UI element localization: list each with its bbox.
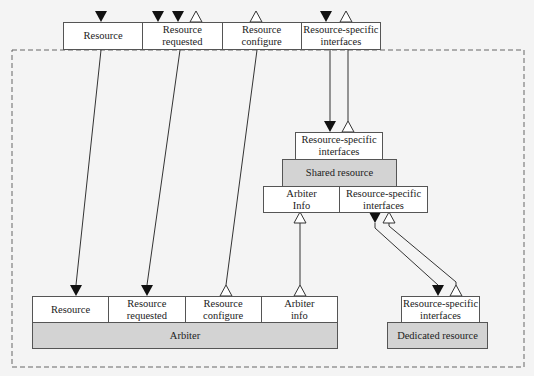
- hollow-arrow-icon: [450, 285, 462, 296]
- dedicated-resource[interactable]: Dedicated resource: [387, 322, 488, 349]
- top-resource-configure-port[interactable]: Resource configure: [223, 23, 302, 49]
- shared-resource-interfaces[interactable]: Resource-specific interfaces: [295, 132, 383, 160]
- dedicated-resource-interfaces[interactable]: Resource-specific interfaces: [401, 296, 480, 323]
- shared-resource-bottom-row: Arbiter Info Resource-specific interface…: [263, 186, 428, 213]
- arbiter-interface-row: Resource Resource requested Resource con…: [32, 296, 338, 323]
- filled-arrow-icon: [70, 285, 82, 296]
- top-resource-port[interactable]: Resource: [64, 23, 143, 49]
- top-resource-requested-port[interactable]: Resource requested: [143, 23, 222, 49]
- hollow-arrow-icon: [294, 212, 306, 223]
- arbiter-info-port[interactable]: Arbiter info: [262, 297, 337, 322]
- top-interface-row: Resource Resource requested Resource con…: [63, 22, 381, 50]
- filled-arrow-icon: [141, 285, 153, 296]
- hollow-arrow-icon: [220, 285, 232, 296]
- hollow-arrow-icon: [342, 121, 354, 132]
- shared-resource[interactable]: Shared resource: [282, 159, 397, 187]
- arbiter-resource-configure-port[interactable]: Resource configure: [186, 297, 262, 322]
- arbiter[interactable]: Arbiter: [32, 322, 338, 349]
- filled-arrow-icon: [432, 285, 444, 296]
- shared-resource-specific-interfaces-port[interactable]: Resource-specific interfaces: [340, 187, 427, 212]
- hollow-arrow-icon: [383, 212, 395, 223]
- filled-arrow-icon: [172, 11, 184, 22]
- filled-arrow-icon: [369, 212, 381, 223]
- top-resource-specific-interfaces-port[interactable]: Resource-specific interfaces: [302, 23, 380, 49]
- arbiter-resource-requested-port[interactable]: Resource requested: [109, 297, 185, 322]
- shared-arbiter-info-port[interactable]: Arbiter Info: [264, 187, 340, 212]
- hollow-arrow-icon: [294, 285, 306, 296]
- hollow-arrow-icon: [340, 11, 352, 22]
- arbiter-resource-port[interactable]: Resource: [33, 297, 109, 322]
- hollow-arrow-icon: [250, 11, 262, 22]
- filled-arrow-icon: [95, 11, 107, 22]
- filled-arrow-icon: [152, 11, 164, 22]
- hollow-arrow-icon: [190, 11, 202, 22]
- filled-arrow-icon: [324, 121, 336, 132]
- filled-arrow-icon: [320, 11, 332, 22]
